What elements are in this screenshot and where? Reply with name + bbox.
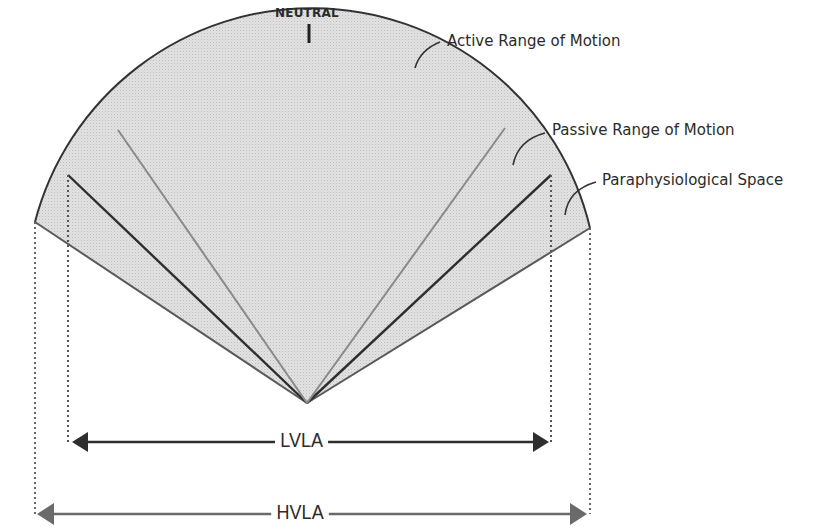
fan-region bbox=[35, 8, 590, 403]
passive-range-label: Passive Range of Motion bbox=[552, 121, 735, 139]
range-of-motion-diagram bbox=[0, 0, 815, 527]
lvla-label: LVLA bbox=[275, 429, 329, 452]
paraphysiological-space-label: Paraphysiological Space bbox=[602, 171, 783, 189]
hvla-label: HVLA bbox=[271, 501, 329, 524]
active-range-label: Active Range of Motion bbox=[447, 32, 621, 50]
neutral-label: NEUTRAL bbox=[275, 6, 339, 20]
